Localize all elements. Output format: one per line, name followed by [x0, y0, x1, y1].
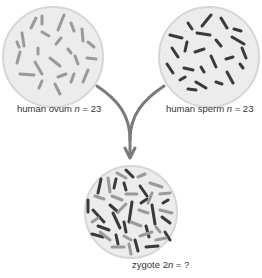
fertilization-diagram: [0, 0, 262, 278]
sperm-label: human sperm n = 23: [166, 103, 253, 114]
zygote-cell: [85, 166, 177, 258]
sperm-cell: [159, 7, 259, 107]
ovum-label: human ovum n = 23: [17, 103, 101, 114]
ovum-cell: [3, 7, 103, 107]
zygote-label: zygote 2n = ?: [132, 259, 189, 270]
fusion-arrow: [97, 86, 164, 158]
